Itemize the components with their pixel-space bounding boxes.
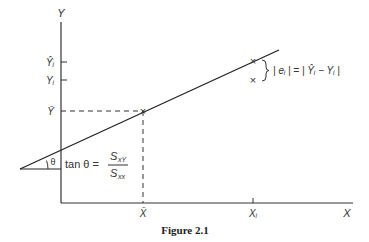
slope-denominator: S <box>110 167 118 179</box>
residual-brace <box>262 60 269 81</box>
slope-formula-prefix: tan θ = <box>65 158 99 170</box>
x-tick-label-xbar: X̄ <box>139 207 147 219</box>
slope-numerator: S <box>110 150 118 162</box>
mean-point-marker: × <box>140 105 146 117</box>
fitted-point-marker: × <box>250 55 256 67</box>
regression-diagram: × × × Y X Ŷᵢ Yᵢ Ȳ X̄ Xᵢ θ tan θ = S xY S… <box>0 0 369 242</box>
figure-caption: Figure 2.1 <box>161 224 208 236</box>
regression-line <box>20 50 279 169</box>
y-axis-label: Y <box>57 7 65 19</box>
slope-numerator-sub: xY <box>117 156 128 163</box>
angle-arc <box>47 161 48 169</box>
residual-formula: | eᵢ | = | Ŷᵢ − Yᵢ | <box>273 64 340 76</box>
x-tick-label-x-i: Xᵢ <box>248 208 258 219</box>
y-tick-label-yhat-i: Ŷᵢ <box>46 56 55 68</box>
slope-denominator-sub: xx <box>117 173 126 180</box>
angle-label: θ <box>50 157 55 167</box>
y-tick-label-y-i: Yᵢ <box>46 75 55 86</box>
y-tick-label-ybar: Ȳ <box>47 106 55 117</box>
x-axis-label: X <box>342 207 351 219</box>
observed-point-marker: × <box>250 74 256 86</box>
